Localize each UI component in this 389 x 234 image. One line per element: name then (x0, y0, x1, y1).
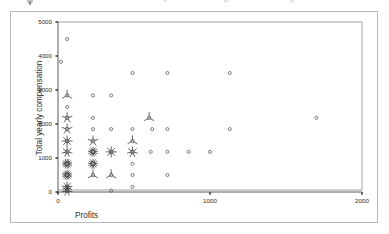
data-point (151, 128, 154, 131)
data-point (166, 150, 169, 153)
data-point (131, 162, 134, 165)
data-point (63, 170, 72, 179)
data-point (110, 128, 113, 131)
data-point (63, 159, 72, 168)
data-point (228, 71, 231, 74)
data-point (66, 37, 69, 40)
plot-box (58, 22, 362, 190)
scatter-plot-canvas: 5000 4000 3000 2000 1000 0 0 1000 2000 T… (0, 0, 389, 234)
data-point (166, 128, 169, 131)
data-point (91, 94, 94, 97)
data-point (62, 136, 72, 146)
y-axis (55, 22, 58, 192)
data-point (62, 147, 72, 157)
data-point (62, 90, 71, 98)
x-tick-label-2000: 2000 (355, 197, 369, 204)
data-point (131, 173, 134, 176)
data-point (131, 128, 134, 131)
data-point (131, 71, 134, 74)
data-point-layer (59, 37, 317, 195)
data-point (149, 150, 152, 153)
data-point (128, 147, 138, 157)
x-tick-label-1000: 1000 (203, 197, 217, 204)
x-axis-tick-labels: 0 1000 2000 (56, 197, 369, 204)
data-point (107, 170, 116, 178)
data-point (110, 94, 113, 97)
data-point (62, 124, 72, 133)
data-point (187, 150, 190, 153)
data-point (315, 116, 318, 119)
data-point (88, 159, 97, 168)
y-tick-label-0: 0 (49, 188, 53, 195)
data-point (91, 116, 94, 119)
data-point (62, 113, 72, 122)
x-axis (58, 192, 362, 195)
data-point (166, 71, 169, 74)
data-point (128, 136, 137, 144)
data-point (88, 147, 97, 156)
data-point (145, 113, 154, 121)
data-point (88, 136, 98, 145)
data-point (106, 147, 116, 157)
x-axis-title: Profits (75, 211, 98, 220)
data-point (166, 173, 169, 176)
data-point (91, 128, 94, 131)
y-tick-label-5000: 5000 (38, 18, 52, 25)
data-point (131, 185, 134, 188)
data-point (59, 60, 62, 63)
data-point (208, 150, 211, 153)
data-point (88, 170, 97, 178)
data-point (66, 105, 69, 108)
data-point (228, 128, 231, 131)
y-tick-label-4000: 4000 (38, 52, 52, 59)
y-axis-title: Total yearly compensation (35, 60, 44, 155)
figure-root: 5000 4000 3000 2000 1000 0 0 1000 2000 T… (0, 0, 389, 234)
x-tick-label-0: 0 (56, 197, 60, 204)
